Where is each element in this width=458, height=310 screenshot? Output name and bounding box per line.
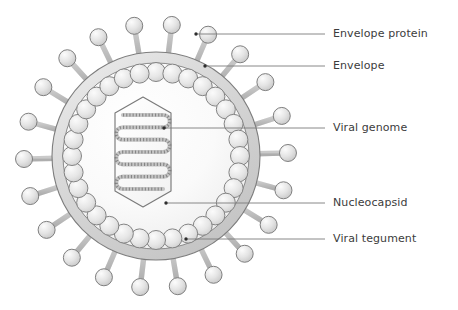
label-nucleocapsid: Nucleocapsid: [333, 196, 408, 209]
leader-anchor-dot: [194, 32, 197, 35]
envelope-protein-spike: [132, 254, 149, 295]
envelope-protein-spike: [195, 26, 217, 65]
virus-diagram: Envelope proteinEnvelopeViral genomeNucl…: [0, 0, 458, 310]
envelope-protein-spike: [163, 16, 180, 57]
envelope-protein-spike: [126, 17, 143, 58]
label-viral-genome: Viral genome: [333, 121, 407, 134]
envelope-protein-spike: [38, 211, 74, 238]
envelope-protein-spike: [95, 247, 117, 286]
envelope-protein-spike: [22, 186, 62, 205]
envelope-protein-spike: [169, 254, 186, 295]
envelope-protein-spike: [219, 46, 249, 80]
envelope-protein-spike: [252, 182, 292, 199]
tegument-bead: [130, 64, 149, 83]
leader-anchor-dot: [162, 126, 165, 129]
viral-genome-strand: [116, 115, 170, 189]
envelope-protein-spike: [250, 107, 290, 126]
leader-anchor-dot: [184, 237, 187, 240]
leader-anchor-dot: [164, 201, 167, 204]
envelope-protein-spike: [238, 74, 274, 101]
callout-envelope: [203, 64, 325, 67]
label-viral-tegument: Viral tegument: [333, 232, 416, 245]
envelope-protein-spike: [223, 229, 254, 262]
virus-illustration: [0, 0, 458, 310]
envelope-protein-spike: [35, 79, 72, 105]
envelope-protein-spike: [199, 245, 222, 283]
envelope-protein-spike: [16, 151, 57, 168]
envelope-protein-spike: [63, 232, 93, 266]
envelope-protein-spike: [20, 113, 60, 130]
leader-anchor-dot: [203, 64, 206, 67]
envelope-protein-spike: [90, 29, 113, 67]
envelope-protein-spike: [240, 208, 277, 234]
envelope-protein-spike: [59, 50, 90, 83]
label-envelope-protein: Envelope protein: [333, 27, 428, 40]
envelope-protein-spike: [255, 144, 296, 161]
label-envelope: Envelope: [333, 59, 385, 72]
